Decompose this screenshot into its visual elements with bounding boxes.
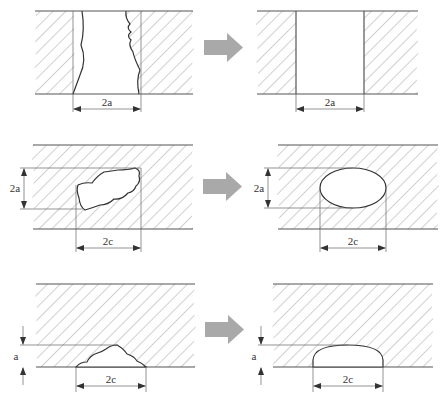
plate-right-part: [126, 11, 194, 94]
irregular-flaw-left-boundary: [73, 11, 84, 94]
label-2c: 2c: [343, 373, 354, 385]
right-arrow-icon: [203, 172, 242, 201]
semi-elliptical-surface-crack: [313, 345, 383, 367]
label-a: a: [252, 350, 257, 362]
label-2a: 2a: [325, 96, 336, 108]
plate-left-part: [256, 11, 296, 94]
label-a: a: [14, 350, 19, 362]
label-2a: 2a: [102, 96, 113, 108]
plate-left-part: [34, 11, 75, 94]
right-arrow-icon: [204, 33, 243, 62]
row1-left-panel: 2a: [34, 11, 194, 112]
row1-right-panel: 2a: [256, 11, 419, 112]
label-2a: 2a: [10, 182, 21, 194]
row3-left-panel: a 2c: [14, 284, 196, 392]
row2-left-panel: 2a 2c: [10, 145, 194, 252]
flaw-schematization-diagram: 2a 2a 2a 2c: [0, 0, 447, 398]
row2-right-panel: 2a 2c: [254, 145, 439, 252]
right-arrow-icon: [205, 315, 244, 344]
row3-right-panel: a 2c: [252, 284, 434, 392]
label-2c: 2c: [106, 373, 117, 385]
elliptical-embedded-crack: [320, 168, 386, 208]
label-2c: 2c: [103, 235, 114, 247]
plate-right-part: [364, 11, 419, 94]
label-2a: 2a: [254, 182, 265, 194]
label-2c: 2c: [348, 235, 359, 247]
